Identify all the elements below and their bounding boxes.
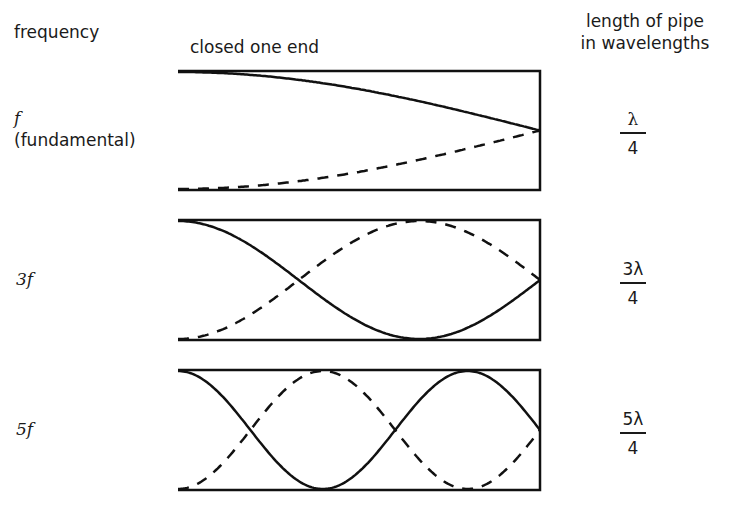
pipe-third-harmonic [178,220,540,340]
pipe-diagrams [0,0,731,510]
standing-wave-solid [178,371,540,489]
standing-wave-solid [178,72,540,131]
standing-wave-dashed [178,131,540,190]
pipe-fundamental [178,71,540,190]
pipe-fifth-harmonic [178,370,540,490]
